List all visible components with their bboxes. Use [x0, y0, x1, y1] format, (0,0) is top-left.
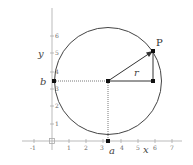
svg-text:-1: -1 — [30, 144, 36, 151]
svg-text:1: 1 — [55, 120, 59, 127]
label-a: a — [109, 145, 115, 156]
circle-diagram: -1 1 2 3 4 5 6 7 1 2 3 4 5 6 x y — [0, 0, 193, 165]
center-point — [106, 79, 110, 83]
right-triangle — [108, 51, 153, 81]
svg-text:4: 4 — [120, 144, 124, 151]
point-p — [151, 49, 155, 53]
x-axis-label: x — [143, 144, 149, 155]
radius-line — [108, 53, 150, 81]
point-b — [52, 79, 56, 83]
svg-text:5: 5 — [136, 144, 140, 151]
points — [52, 49, 155, 143]
svg-text:1: 1 — [67, 144, 71, 151]
svg-text:6: 6 — [55, 32, 59, 39]
point-a — [106, 139, 110, 143]
svg-text:2: 2 — [55, 102, 59, 109]
svg-text:5: 5 — [55, 49, 59, 56]
svg-text:2: 2 — [84, 144, 88, 151]
label-r: r — [134, 67, 140, 78]
corner-point — [151, 79, 155, 83]
svg-text:6: 6 — [153, 144, 157, 151]
label-p: P — [156, 37, 163, 48]
label-b: b — [40, 76, 46, 87]
svg-text:3: 3 — [100, 144, 104, 151]
svg-text:7: 7 — [170, 144, 174, 151]
y-axis-label: y — [37, 48, 44, 59]
dotted-projections — [54, 81, 108, 141]
